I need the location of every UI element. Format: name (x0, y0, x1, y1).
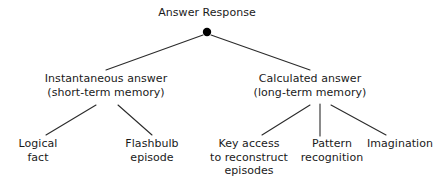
node-calculated-answer: Calculated answer (long-term memory) (222, 72, 398, 99)
node-imagination: Imagination (360, 137, 440, 151)
node-flashbulb-episode-line-2: episode (112, 151, 192, 165)
node-key-access-line-1: Key access (203, 137, 295, 151)
node-flashbulb-episode: Flashbulb episode (112, 137, 192, 164)
node-key-access-line-3: episodes (203, 164, 295, 178)
node-logical-fact-line-2: fact (0, 151, 76, 165)
root-label-line-1: Answer Response (107, 6, 307, 20)
node-pattern-recognition-line-2: recognition (292, 151, 372, 165)
node-key-access-to-reconstruct-episodes: Key access to reconstruct episodes (203, 137, 295, 178)
root-node-dot (203, 28, 211, 36)
node-instantaneous-answer-line-2: (short-term memory) (16, 86, 196, 100)
node-key-access-line-2: to reconstruct (203, 151, 295, 165)
node-logical-fact-line-1: Logical (0, 137, 76, 151)
edge-root-to-calculated (211, 35, 310, 70)
node-imagination-line-1: Imagination (360, 137, 440, 151)
edge-instantaneous-to-logical-fact (46, 105, 96, 135)
edge-root-to-instantaneous (106, 35, 203, 70)
node-instantaneous-answer: Instantaneous answer (short-term memory) (16, 72, 196, 99)
edge-instantaneous-to-flashbulb-episode (118, 105, 152, 135)
node-calculated-answer-line-2: (long-term memory) (222, 86, 398, 100)
page-title: Answer Response (107, 6, 307, 20)
answer-response-tree-diagram: Answer Response Instantaneous answer (sh… (0, 0, 441, 191)
edge-calculated-to-imagination (331, 105, 386, 135)
node-logical-fact: Logical fact (0, 137, 76, 164)
node-flashbulb-episode-line-1: Flashbulb (112, 137, 192, 151)
node-calculated-answer-line-1: Calculated answer (222, 72, 398, 86)
node-instantaneous-answer-line-1: Instantaneous answer (16, 72, 196, 86)
edge-calculated-to-key-access (262, 105, 310, 135)
